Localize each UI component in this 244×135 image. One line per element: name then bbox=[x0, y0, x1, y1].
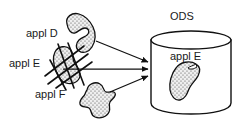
arrow-appl-f bbox=[110, 76, 148, 92]
arrow-appl-d bbox=[96, 41, 148, 62]
ods-content-label: appl E bbox=[170, 51, 201, 62]
ods-title: ODS bbox=[170, 11, 194, 22]
appl-f-blob bbox=[80, 83, 116, 118]
source-label-appl-e: appl E bbox=[9, 58, 40, 69]
diagram-canvas: appl D appl E appl F ODS appl E bbox=[0, 0, 244, 135]
appl-d-blob bbox=[67, 14, 95, 53]
source-label-appl-d: appl D bbox=[26, 28, 58, 39]
source-label-appl-f: appl F bbox=[35, 89, 66, 100]
